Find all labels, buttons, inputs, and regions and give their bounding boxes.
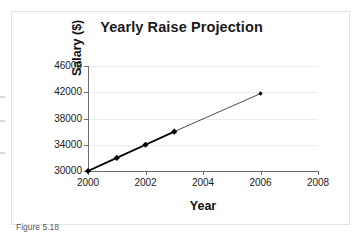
data-series-layer [88, 66, 318, 172]
x-tick-label: 2002 [126, 178, 166, 188]
scan-artifact-mark [0, 120, 5, 122]
x-tick-label: 2000 [68, 178, 108, 188]
scan-artifact-mark [0, 152, 5, 154]
series-line [88, 132, 174, 171]
y-tick-label: 34000 [34, 140, 82, 150]
x-axis-title: Year [88, 199, 318, 213]
chart-title: Yearly Raise Projection [0, 19, 363, 35]
plot-area: Salary ($) Year 300003400038000420004600… [88, 66, 318, 171]
y-tick-label: 38000 [34, 114, 82, 124]
y-tick-label: 30000 [34, 166, 82, 176]
y-tick-label: 46000 [34, 61, 82, 71]
page-edge-artifact [0, 0, 4, 252]
x-tick-mark [318, 171, 319, 175]
scan-artifact-mark [0, 96, 5, 98]
data-point-marker [142, 142, 148, 148]
data-point-marker [258, 91, 262, 95]
y-tick-label: 42000 [34, 87, 82, 97]
data-point-marker [114, 155, 120, 161]
series-line [174, 94, 260, 132]
x-tick-label: 2004 [183, 178, 223, 188]
figure-caption: Figure 5.18 [16, 222, 59, 232]
x-tick-label: 2006 [241, 178, 281, 188]
x-tick-label: 2008 [298, 178, 338, 188]
